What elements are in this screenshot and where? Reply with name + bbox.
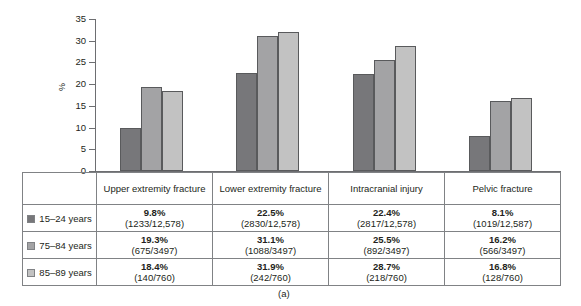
legend-label: 15–24 years — [39, 213, 91, 224]
bar — [162, 91, 183, 171]
table-cell: 16.2%(566/3497) — [445, 232, 561, 259]
table-cell: 18.4%(140/760) — [97, 259, 213, 286]
table-row: 15–24 years9.8%(1233/12,578)22.5%(2830/1… — [23, 205, 561, 232]
table-corner-cell — [23, 173, 97, 205]
cell-percent: 22.5% — [213, 207, 328, 219]
bar-chart: % 05101520253035 — [0, 0, 581, 175]
cell-percent: 16.8% — [445, 261, 560, 273]
table-row: 85–89 years18.4%(140/760)31.9%(242/760)2… — [23, 259, 561, 286]
legend-swatch-icon — [27, 269, 35, 277]
y-tick-label: 25 — [62, 58, 86, 68]
data-table-wrap: Upper extremity fractureLower extremity … — [0, 172, 581, 284]
y-tick-label: 15 — [62, 101, 86, 111]
table-row: 75–84 years19.3%(675/3497)31.1%(1088/349… — [23, 232, 561, 259]
cell-percent: 22.4% — [329, 207, 444, 219]
cell-percent: 28.7% — [329, 261, 444, 273]
data-table: Upper extremity fractureLower extremity … — [22, 172, 561, 286]
legend-item-1[interactable]: 75–84 years — [23, 232, 97, 259]
table-cell: 8.1%(1019/12,587) — [445, 205, 561, 232]
cell-percent: 16.2% — [445, 234, 560, 246]
cell-percent: 18.4% — [97, 261, 212, 273]
bar-group — [328, 19, 445, 171]
bar-group — [445, 19, 562, 171]
cell-counts: (1088/3497) — [213, 245, 328, 257]
bars-layer — [95, 19, 561, 171]
column-header-3: Pelvic fracture — [445, 173, 561, 205]
cell-counts: (2830/12,578) — [213, 218, 328, 230]
figure-panel-a: % 05101520253035 Upper extremity fractur… — [0, 0, 581, 306]
y-tick-label: 30 — [62, 36, 86, 46]
table-header-row: Upper extremity fractureLower extremity … — [23, 173, 561, 205]
cell-counts: (2817/12,578) — [329, 218, 444, 230]
bar — [511, 98, 532, 171]
legend-swatch-icon — [27, 242, 35, 250]
column-header-0: Upper extremity fracture — [97, 173, 213, 205]
cell-percent: 25.5% — [329, 234, 444, 246]
cell-percent: 31.1% — [213, 234, 328, 246]
table-cell: 22.5%(2830/12,578) — [213, 205, 329, 232]
column-header-2: Intracranial injury — [329, 173, 445, 205]
cell-counts: (218/760) — [329, 272, 444, 284]
cell-counts: (892/3497) — [329, 245, 444, 257]
y-tick-label: 5 — [62, 145, 86, 155]
bar — [374, 60, 395, 171]
bar — [141, 87, 162, 171]
legend-label: 75–84 years — [39, 240, 91, 251]
bar — [120, 128, 141, 171]
cell-percent: 31.9% — [213, 261, 328, 273]
cell-percent: 19.3% — [97, 234, 212, 246]
legend-swatch-icon — [27, 215, 35, 223]
y-tick-label: 35 — [62, 14, 86, 24]
bar — [395, 46, 416, 171]
bar — [490, 101, 511, 171]
table-cell: 16.8%(128/760) — [445, 259, 561, 286]
bar-group — [95, 19, 212, 171]
y-tick-label: 20 — [62, 79, 86, 89]
table-cell: 22.4%(2817/12,578) — [329, 205, 445, 232]
column-header-1: Lower extremity fracture — [213, 173, 329, 205]
legend-item-0[interactable]: 15–24 years — [23, 205, 97, 232]
cell-counts: (242/760) — [213, 272, 328, 284]
bar — [236, 73, 257, 171]
legend-label: 85–89 years — [39, 267, 91, 278]
cell-counts: (566/3497) — [445, 245, 560, 257]
bar-group — [212, 19, 329, 171]
table-cell: 28.7%(218/760) — [329, 259, 445, 286]
table-cell: 25.5%(892/3497) — [329, 232, 445, 259]
table-cell: 9.8%(1233/12,578) — [97, 205, 213, 232]
cell-counts: (1233/12,578) — [97, 218, 212, 230]
y-tick-label: 10 — [62, 123, 86, 133]
table-cell: 19.3%(675/3497) — [97, 232, 213, 259]
cell-counts: (1019/12,587) — [445, 218, 560, 230]
legend-item-2[interactable]: 85–89 years — [23, 259, 97, 286]
cell-percent: 8.1% — [445, 207, 560, 219]
table-cell: 31.9%(242/760) — [213, 259, 329, 286]
bar — [353, 74, 374, 171]
bar — [469, 136, 490, 171]
cell-counts: (128/760) — [445, 272, 560, 284]
table-cell: 31.1%(1088/3497) — [213, 232, 329, 259]
bar — [257, 36, 278, 171]
cell-counts: (140/760) — [97, 272, 212, 284]
figure-caption-text: (a) — [278, 288, 290, 299]
cell-percent: 9.8% — [97, 207, 212, 219]
cell-counts: (675/3497) — [97, 245, 212, 257]
bar — [278, 32, 299, 171]
